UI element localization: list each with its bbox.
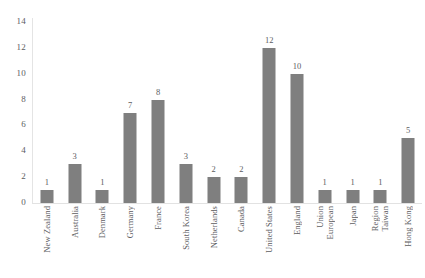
bar-slot: 12 bbox=[255, 0, 283, 204]
bar-value-label: 2 bbox=[211, 165, 215, 174]
category-label-slot: Japan bbox=[339, 206, 367, 278]
category-label: United States bbox=[264, 206, 274, 278]
bar-value-label: 1 bbox=[45, 178, 49, 187]
bar-value-label: 2 bbox=[239, 165, 243, 174]
category-label: Hong Kong bbox=[403, 206, 413, 278]
y-axis-tick-label: 8 bbox=[2, 95, 26, 104]
bar-slot: 1 bbox=[366, 0, 394, 204]
category-label: Denmark bbox=[97, 206, 107, 278]
bar-slot: 3 bbox=[172, 0, 200, 204]
category-label: South Korea bbox=[181, 206, 191, 278]
bar[interactable] bbox=[96, 190, 109, 203]
bar-value-label: 1 bbox=[378, 178, 382, 187]
category-label-slot: United States bbox=[255, 206, 283, 278]
bar-value-label: 7 bbox=[128, 101, 132, 110]
category-label: England bbox=[292, 206, 302, 278]
bar-slot: 1 bbox=[339, 0, 367, 204]
category-label-line: France bbox=[153, 206, 163, 230]
category-label-line: Taiwan bbox=[380, 206, 390, 232]
bar[interactable] bbox=[207, 177, 220, 203]
bar[interactable] bbox=[290, 74, 303, 203]
y-axis-tick-label: 2 bbox=[2, 172, 26, 181]
category-label-line: South Korea bbox=[181, 206, 191, 250]
category-label-line: European bbox=[325, 206, 335, 239]
category-label: TaiwanRegion bbox=[370, 206, 390, 278]
category-label-slot: TaiwanRegion bbox=[366, 206, 394, 278]
bar-value-label: 1 bbox=[350, 178, 354, 187]
x-axis-category-labels: New ZealandAustraliaDenmarkGermanyFrance… bbox=[33, 206, 422, 278]
bar[interactable] bbox=[318, 190, 331, 203]
category-label-slot: South Korea bbox=[172, 206, 200, 278]
category-label-slot: Canada bbox=[228, 206, 256, 278]
bar[interactable] bbox=[124, 113, 137, 204]
category-label: Germany bbox=[125, 206, 135, 278]
category-label-line: United States bbox=[264, 206, 274, 253]
category-label: New Zealand bbox=[42, 206, 52, 278]
y-axis-tick-label: 4 bbox=[2, 146, 26, 155]
bar-value-label: 1 bbox=[100, 178, 104, 187]
bar[interactable] bbox=[152, 100, 165, 203]
bar-slot: 2 bbox=[228, 0, 256, 204]
category-label: France bbox=[153, 206, 163, 278]
bar[interactable] bbox=[179, 164, 192, 203]
y-axis-tick-label: 12 bbox=[2, 43, 26, 52]
bar-value-label: 12 bbox=[265, 36, 274, 45]
bar[interactable] bbox=[68, 164, 81, 203]
bar[interactable] bbox=[40, 190, 53, 203]
bar[interactable] bbox=[374, 190, 387, 203]
y-axis-tick-label: 10 bbox=[2, 69, 26, 78]
category-label: Netherlands bbox=[209, 206, 219, 278]
category-label-line: Australia bbox=[70, 206, 80, 238]
category-label-slot: Netherlands bbox=[200, 206, 228, 278]
bar-slot: 3 bbox=[61, 0, 89, 204]
category-label-line: Japan bbox=[348, 206, 358, 226]
category-label-slot: England bbox=[283, 206, 311, 278]
category-label-slot: Germany bbox=[116, 206, 144, 278]
bar[interactable] bbox=[346, 190, 359, 203]
bar-value-label: 8 bbox=[156, 88, 160, 97]
bar-value-label: 3 bbox=[73, 152, 77, 161]
category-label-slot: Hong Kong bbox=[394, 206, 422, 278]
y-axis-tick-label: 14 bbox=[2, 17, 26, 26]
category-label-line: Germany bbox=[125, 206, 135, 238]
category-label-line: Canada bbox=[236, 206, 246, 232]
plot-area: 1317832212101115 bbox=[33, 0, 422, 204]
bar-slot: 2 bbox=[200, 0, 228, 204]
bar-slot: 1 bbox=[33, 0, 61, 204]
y-axis-tick-label: 6 bbox=[2, 120, 26, 129]
bar-value-label: 5 bbox=[406, 126, 410, 135]
category-label-slot: New Zealand bbox=[33, 206, 61, 278]
category-label-slot: Denmark bbox=[89, 206, 117, 278]
y-axis: 02468101214 bbox=[0, 0, 32, 210]
bar-value-label: 3 bbox=[184, 152, 188, 161]
bar-chart: 02468101214 1317832212101115 New Zealand… bbox=[0, 0, 425, 278]
bar[interactable] bbox=[235, 177, 248, 203]
category-label: EuropeanUnion bbox=[315, 206, 335, 278]
bar-slot: 5 bbox=[394, 0, 422, 204]
category-label: Canada bbox=[236, 206, 246, 278]
bar-slot: 1 bbox=[311, 0, 339, 204]
bar-slot: 7 bbox=[116, 0, 144, 204]
bar-slot: 8 bbox=[144, 0, 172, 204]
category-label-slot: EuropeanUnion bbox=[311, 206, 339, 278]
bar-slot: 10 bbox=[283, 0, 311, 204]
bar-value-label: 1 bbox=[323, 178, 327, 187]
bar-slot: 1 bbox=[89, 0, 117, 204]
category-label-slot: France bbox=[144, 206, 172, 278]
category-label-line: Region bbox=[370, 206, 380, 231]
category-label-line: Denmark bbox=[97, 206, 107, 238]
bar-value-label: 10 bbox=[293, 62, 302, 71]
category-label: Japan bbox=[348, 206, 358, 278]
category-label-line: Union bbox=[315, 206, 325, 228]
category-label-line: New Zealand bbox=[42, 206, 52, 253]
category-label-line: Netherlands bbox=[209, 206, 219, 248]
bar[interactable] bbox=[263, 48, 276, 203]
bar[interactable] bbox=[402, 138, 415, 203]
category-label-line: England bbox=[292, 206, 302, 235]
category-label-line: Hong Kong bbox=[403, 206, 413, 247]
category-label-slot: Australia bbox=[61, 206, 89, 278]
y-axis-tick-label: 0 bbox=[2, 198, 26, 207]
category-label: Australia bbox=[70, 206, 80, 278]
